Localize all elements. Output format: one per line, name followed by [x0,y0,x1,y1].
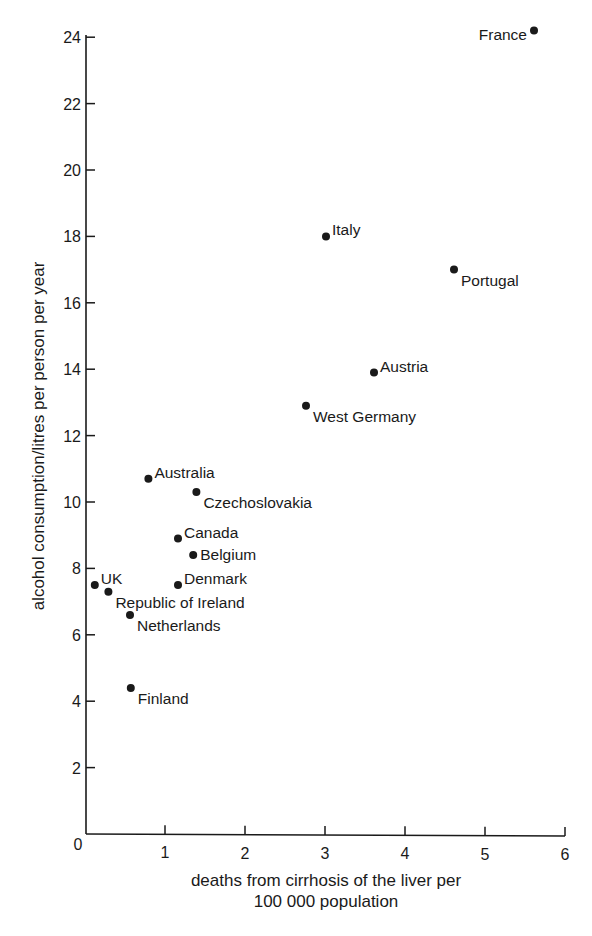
data-point: Finland [127,684,189,707]
point-marker [126,611,134,619]
point-marker [530,27,538,35]
point-label: West Germany [313,408,416,425]
point-label: Italy [332,221,361,238]
y-tick-label: 10 [63,494,81,511]
point-marker [302,402,310,410]
point-label: Czechoslovakia [203,494,312,511]
data-point: Portugal [450,266,519,289]
y-tick-label: 18 [63,228,81,245]
x-tick-label: 6 [561,846,570,863]
point-marker [127,684,135,692]
point-label: UK [101,570,123,587]
x-tick-label: 2 [241,845,250,862]
point-marker [104,588,112,596]
scatter-chart: 24681012141618202224 123456 0 alcohol co… [0,0,592,936]
point-label: Republic of Ireland [115,594,244,611]
x-tick-label: 4 [401,845,410,862]
point-label: Canada [184,524,239,541]
point-label: Austria [380,358,429,375]
x-tick-label: 5 [481,846,490,863]
point-label: Finland [138,690,189,707]
y-axis-title: alcohol consumption/litres per person pe… [29,261,48,610]
point-marker [192,488,200,496]
y-tick-label: 6 [72,627,81,644]
y-tick-label: 12 [63,428,81,445]
y-tick-label: 8 [72,560,81,577]
point-label: Australia [154,464,215,481]
axes [86,35,565,836]
y-ticks: 24681012141618202224 [63,29,95,776]
y-tick-label: 16 [63,295,81,312]
x-tick-label: 3 [321,845,330,862]
point-marker [144,475,152,483]
point-marker [322,232,330,240]
data-point: Republic of Ireland [104,588,244,611]
data-point: Denmark [174,570,247,589]
point-label: Denmark [184,570,247,587]
data-points: FranceItalyPortugalAustriaWest GermanyAu… [91,26,538,707]
point-marker [174,535,182,543]
data-point: Italy [322,221,361,240]
point-label: Netherlands [137,617,221,634]
data-point: Czechoslovakia [192,488,312,511]
x-tick-label: 1 [161,844,170,861]
x-axis-title-line-2: 100 000 population [254,892,399,911]
y-tick-label: 2 [72,760,81,777]
point-label: Portugal [461,272,519,289]
data-point: France [479,26,538,43]
data-point: Austria [370,358,429,377]
y-tick-label: 20 [63,162,81,179]
data-point: Netherlands [126,611,221,634]
data-point: Canada [174,524,239,543]
y-tick-label: 14 [63,361,81,378]
y-tick-label: 24 [63,29,81,46]
point-marker [370,369,378,377]
origin-label: 0 [74,836,83,853]
data-point: UK [91,570,123,589]
x-ticks: 123456 [161,825,570,863]
point-marker [450,266,458,274]
point-label: France [479,26,527,43]
point-label: Belgium [200,546,256,563]
data-point: Belgium [189,546,256,563]
point-marker [174,581,182,589]
data-point: Australia [144,464,215,483]
y-tick-label: 4 [72,693,81,710]
x-axis-title-line-1: deaths from cirrhosis of the liver per [191,871,462,890]
data-point: West Germany [302,402,416,425]
point-marker [91,581,99,589]
y-tick-label: 22 [63,96,81,113]
point-marker [189,551,197,559]
